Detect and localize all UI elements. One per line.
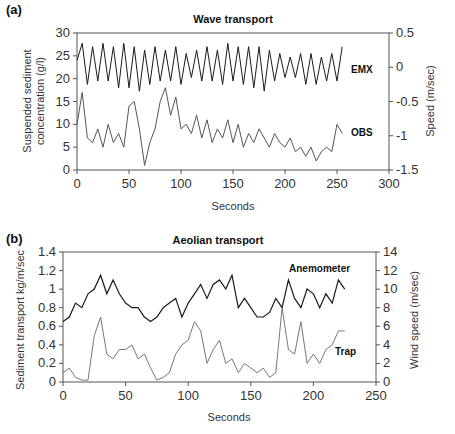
- x-tick-label: 300: [378, 176, 400, 191]
- panel-a-x-axis: 050100150200250300: [73, 170, 399, 191]
- y-tick-label: 20: [56, 71, 70, 86]
- panel-b-label: (b): [6, 231, 23, 246]
- panel-a-ylabel: Suspended sediment concentration (g/l): [21, 49, 46, 152]
- x-tick-label: 100: [177, 388, 199, 403]
- panel-b-y2label: Wind speed (m/sec): [408, 271, 420, 369]
- panel-a-ylabel-line1: Suspended sediment: [21, 49, 33, 152]
- y2-tick-label: 12: [383, 263, 397, 278]
- anemometer-series-line: [63, 275, 345, 321]
- panel-a: (a) Wave transport 051015202530 0.50-0.5…: [6, 2, 436, 212]
- y2-tick-label: 14: [383, 244, 397, 259]
- x-tick-label: 100: [170, 176, 192, 191]
- trap-series-line: [63, 308, 345, 380]
- emx-annotation: EMX: [351, 64, 373, 75]
- y-tick-label: 0.2: [38, 355, 56, 370]
- x-tick-label: 200: [303, 388, 325, 403]
- y2-tick-label: 2: [383, 355, 390, 370]
- panel-a-ylabel-line2: concentration (g/l): [34, 57, 46, 145]
- y-tick-label: 10: [56, 116, 70, 131]
- y2-tick-label: -1.5: [396, 162, 418, 177]
- y-tick-label: 1: [49, 281, 56, 296]
- panel-b-xlabel: Seconds: [208, 411, 251, 423]
- panel-a-title: Wave transport: [193, 13, 273, 25]
- panel-a-y2-axis: 0.50-0.5-1-1.5: [389, 25, 418, 177]
- x-tick-label: 150: [240, 388, 262, 403]
- x-tick-label: 250: [365, 388, 387, 403]
- y-tick-label: 25: [56, 48, 70, 63]
- y-tick-label: 1.2: [38, 263, 56, 278]
- x-tick-label: 200: [274, 176, 296, 191]
- panel-a-y2label: Speed (m/sec): [424, 65, 436, 137]
- panel-b: (b) Aeolian transport 00.20.40.60.811.21…: [6, 231, 420, 423]
- panel-a-label: (a): [6, 2, 22, 17]
- y-tick-label: 0.6: [38, 318, 56, 333]
- y2-tick-label: 10: [383, 281, 397, 296]
- y-tick-label: 30: [56, 25, 70, 40]
- y-tick-label: 0: [63, 162, 70, 177]
- y-tick-label: 0.4: [38, 337, 56, 352]
- y-tick-label: 1.4: [38, 244, 56, 259]
- y-tick-label: 5: [63, 139, 70, 154]
- y-tick-label: 0.8: [38, 300, 56, 315]
- panel-b-title: Aeolian transport: [172, 234, 263, 246]
- y2-tick-label: 8: [383, 300, 390, 315]
- y2-tick-label: 0: [383, 374, 390, 389]
- panel-a-xlabel: Seconds: [212, 200, 255, 212]
- y-tick-label: 15: [56, 94, 70, 109]
- panel-a-plot-area: [77, 33, 389, 170]
- y2-tick-label: 0.5: [396, 25, 414, 40]
- x-tick-label: 50: [118, 388, 132, 403]
- x-tick-label: 150: [222, 176, 244, 191]
- panel-b-ylabel: Sediment transport kg/m/sec: [14, 250, 26, 391]
- x-tick-label: 0: [73, 176, 80, 191]
- y2-tick-label: 6: [383, 318, 390, 333]
- anemometer-annotation: Anemometer: [289, 263, 350, 274]
- panel-b-x-axis: 050100150200250: [59, 382, 386, 403]
- panel-b-y-axis: 00.20.40.60.811.21.4: [38, 244, 63, 389]
- y2-tick-label: -0.5: [396, 94, 418, 109]
- y2-tick-label: 0: [396, 59, 403, 74]
- trap-annotation: Trap: [335, 346, 356, 357]
- y2-tick-label: -1: [396, 128, 408, 143]
- figure: (a) Wave transport 051015202530 0.50-0.5…: [0, 0, 455, 434]
- emx-series-line: [77, 43, 342, 91]
- x-tick-label: 250: [326, 176, 348, 191]
- obs-annotation: OBS: [351, 127, 373, 138]
- y-tick-label: 0: [49, 374, 56, 389]
- panel-a-y-axis: 051015202530: [56, 25, 77, 177]
- panel-b-y2-axis: 02468101214: [376, 244, 397, 389]
- x-tick-label: 50: [122, 176, 136, 191]
- x-tick-label: 0: [59, 388, 66, 403]
- y2-tick-label: 4: [383, 337, 390, 352]
- obs-series-line: [77, 88, 342, 166]
